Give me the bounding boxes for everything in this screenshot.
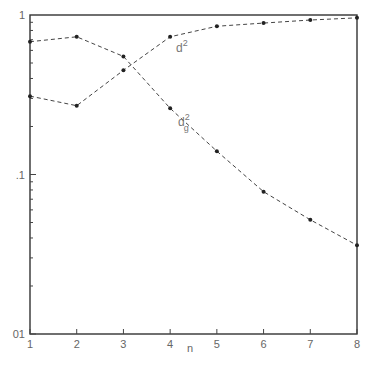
x-tick-label: 2 (74, 338, 80, 350)
data-point (308, 18, 312, 22)
x-axis-ticks: 12345678 (27, 329, 360, 350)
data-point (168, 106, 172, 110)
curve-label-d2: d2 (176, 38, 188, 55)
curve-label-dg2: d2g (178, 112, 190, 133)
data-point (355, 16, 359, 20)
curve-labels: d2d2g (176, 38, 190, 133)
y-tick-label: .1 (16, 169, 25, 181)
data-point (262, 21, 266, 25)
data-point (28, 94, 32, 98)
plot-frame (30, 15, 357, 334)
x-tick-label: 1 (27, 338, 33, 350)
x-tick-label: 6 (261, 338, 267, 350)
data-point (308, 218, 312, 222)
x-tick-label: 4 (167, 338, 173, 350)
plot-border (30, 15, 357, 334)
x-axis-label: n (187, 342, 193, 354)
series-line-dg2 (30, 37, 357, 245)
data-point (215, 24, 219, 28)
y-axis-ticks: 1.101 (13, 9, 36, 340)
log-line-chart: 1.101 12345678 d2d2g n (0, 0, 374, 367)
data-point (75, 35, 79, 39)
series-line-d2 (30, 18, 357, 106)
data-point (215, 149, 219, 153)
x-tick-label: 5 (214, 338, 220, 350)
data-point (75, 104, 79, 108)
y-tick-label: 01 (13, 328, 25, 340)
data-point (121, 54, 125, 58)
data-point (262, 190, 266, 194)
data-point (355, 243, 359, 247)
x-tick-label: 3 (120, 338, 126, 350)
data-point (168, 35, 172, 39)
x-tick-label: 7 (307, 338, 313, 350)
data-series (28, 16, 359, 247)
data-point (28, 40, 32, 44)
x-tick-label: 8 (354, 338, 360, 350)
y-tick-label: 1 (19, 9, 25, 21)
data-point (121, 68, 125, 72)
